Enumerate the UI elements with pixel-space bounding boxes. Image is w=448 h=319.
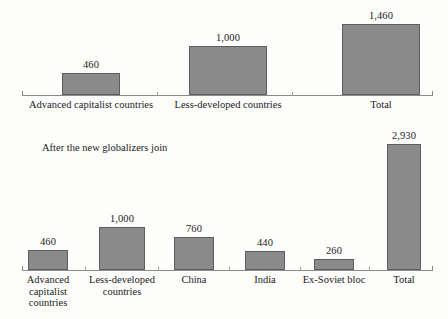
axis-cap-right: [432, 91, 433, 96]
category-label-line: Advanced: [12, 274, 84, 286]
category-label-line: India: [237, 274, 293, 286]
bar-value-label: 760: [154, 223, 234, 234]
chart-baseline-axis: [22, 270, 432, 271]
bar: [28, 250, 68, 270]
bar-value-label: 1,460: [341, 10, 421, 21]
bar-value-label: 460: [8, 236, 88, 247]
axis-tick: [369, 267, 370, 271]
bar: [245, 251, 285, 270]
chart-baseline-axis: [22, 95, 432, 96]
category-label: Advancedcapitalistcountries: [12, 274, 84, 309]
chart-panel-before: 460Advanced capitalist countries1,000Les…: [0, 0, 448, 115]
category-label: India: [237, 274, 293, 286]
bar-value-label: 460: [51, 59, 131, 70]
category-label-line: China: [164, 274, 224, 286]
bar: [342, 24, 420, 95]
category-label: Less-developed countries: [153, 99, 303, 111]
bar-value-label: 1,000: [82, 213, 162, 224]
category-label: Ex-Soviet bloc: [294, 274, 374, 286]
category-label-line: countries: [79, 286, 165, 298]
category-label-line: countries: [12, 297, 84, 309]
category-label-line: Total: [379, 274, 429, 286]
bar-value-label: 440: [225, 237, 305, 248]
axis-tick: [292, 92, 293, 96]
axis-cap-left: [22, 266, 23, 271]
bar-value-label: 1,000: [188, 32, 268, 43]
bar-value-label: 2,930: [364, 130, 444, 141]
category-label-line: Total: [331, 99, 431, 111]
plot-area-after: 460Advancedcapitalistcountries1,000Less-…: [0, 120, 448, 319]
bar: [62, 73, 120, 95]
axis-tick: [229, 267, 230, 271]
figure-root: 460Advanced capitalist countries1,000Les…: [0, 0, 448, 319]
category-label-line: Less-developed: [79, 274, 165, 286]
category-label: Total: [331, 99, 431, 111]
category-label: Advanced capitalist countries: [7, 99, 175, 111]
axis-cap-left: [22, 91, 23, 96]
axis-tick: [157, 92, 158, 96]
bar: [174, 237, 214, 270]
axis-tick: [158, 267, 159, 271]
category-label-line: Ex-Soviet bloc: [294, 274, 374, 286]
category-label: Total: [379, 274, 429, 286]
bar-value-label: 260: [294, 245, 374, 256]
category-label-line: Less-developed countries: [153, 99, 303, 111]
bar: [387, 144, 421, 270]
category-label-line: capitalist: [12, 286, 84, 298]
axis-tick: [85, 267, 86, 271]
bar: [189, 46, 267, 95]
axis-tick: [300, 267, 301, 271]
bar: [314, 259, 354, 270]
bar: [99, 227, 145, 270]
category-label: China: [164, 274, 224, 286]
chart-panel-after: After the new globalizers join 460Advanc…: [0, 120, 448, 319]
category-label-line: Advanced capitalist countries: [7, 99, 175, 111]
axis-cap-right: [432, 266, 433, 271]
plot-area-before: 460Advanced capitalist countries1,000Les…: [0, 0, 448, 115]
category-label: Less-developedcountries: [79, 274, 165, 297]
